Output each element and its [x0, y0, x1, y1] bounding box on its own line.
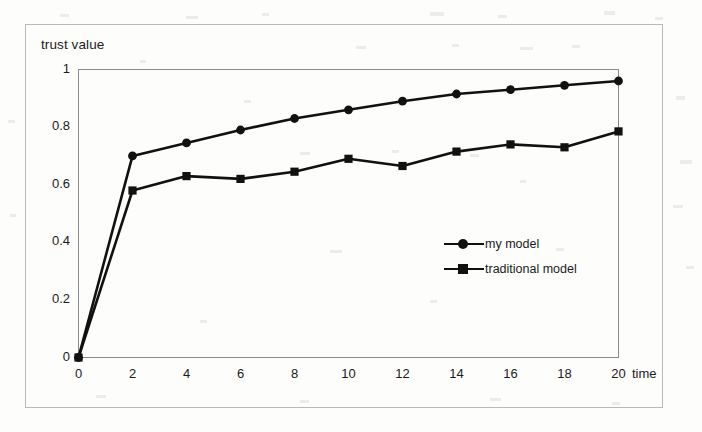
y-tick-label: 0 — [36, 349, 70, 364]
series-my-model — [74, 77, 623, 362]
circle-marker-icon — [444, 237, 484, 251]
legend-label-traditional-model: traditional model — [484, 262, 577, 276]
data-point-square — [506, 140, 514, 148]
data-point-square — [398, 162, 406, 170]
chart-legend: my model traditional model — [444, 231, 604, 281]
x-tick-label: 4 — [172, 366, 202, 381]
data-point-circle — [290, 114, 299, 123]
data-point-square — [560, 143, 568, 151]
x-tick-label: 6 — [226, 366, 256, 381]
data-point-circle — [398, 97, 407, 106]
data-point-square — [74, 353, 82, 361]
square-marker-icon — [444, 262, 484, 276]
data-point-square — [614, 127, 622, 135]
data-point-circle — [452, 90, 461, 99]
data-point-square — [182, 172, 190, 180]
data-point-square — [452, 148, 460, 156]
x-tick-label: 2 — [118, 366, 148, 381]
data-point-circle — [506, 85, 515, 94]
series-line — [79, 81, 619, 358]
data-point-circle — [128, 152, 137, 161]
data-point-circle — [182, 139, 191, 148]
data-point-square — [236, 175, 244, 183]
data-point-square — [290, 168, 298, 176]
legend-entry-my-model[interactable]: my model — [444, 231, 604, 256]
x-tick-label: 16 — [496, 366, 526, 381]
legend-label-my-model: my model — [484, 237, 539, 251]
x-tick-label: 10 — [334, 366, 364, 381]
data-point-circle — [344, 105, 353, 114]
data-point-circle — [236, 126, 245, 135]
data-point-square — [128, 186, 136, 194]
x-tick-label: 0 — [64, 366, 94, 381]
x-tick-label: 12 — [388, 366, 418, 381]
x-tick-label: 8 — [280, 366, 310, 381]
y-tick-label: 0.8 — [36, 118, 70, 133]
scanned-page-background: trust value time 00.20.40.60.81 02468101… — [0, 0, 702, 432]
y-tick-label: 0.4 — [36, 233, 70, 248]
legend-entry-traditional-model[interactable]: traditional model — [444, 256, 604, 281]
y-tick-label: 0.2 — [36, 291, 70, 306]
x-tick-label: 20 — [604, 366, 634, 381]
data-point-circle — [614, 77, 623, 86]
y-tick-label: 0.6 — [36, 176, 70, 191]
data-point-circle — [560, 81, 569, 90]
x-tick-label: 14 — [442, 366, 472, 381]
data-point-square — [344, 155, 352, 163]
y-tick-label: 1 — [36, 61, 70, 76]
series-layer — [74, 77, 623, 362]
x-tick-label: 18 — [550, 366, 580, 381]
